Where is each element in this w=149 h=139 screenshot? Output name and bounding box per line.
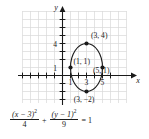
- point-marker-bottom: [84, 89, 88, 93]
- x-axis: [18, 73, 137, 79]
- point-label-3-minus2: (3, −2): [74, 95, 95, 104]
- equation-second-denominator: 9: [62, 120, 66, 129]
- equation-first-numerator-text: (x − 3): [12, 110, 34, 119]
- point-marker-top: [84, 41, 88, 45]
- equation-operator: +: [40, 116, 49, 125]
- point-marker-left: [68, 65, 72, 69]
- equation-equals-one: = 1: [79, 116, 92, 125]
- y-tick-label-1: 1: [53, 64, 57, 73]
- point-label-1-1: (1, 1): [74, 57, 91, 66]
- equation-first-exponent: 2: [34, 108, 37, 114]
- x-tick-label-1: 1: [69, 78, 73, 87]
- y-tick-label-4: 4: [53, 40, 57, 49]
- equation-first-fraction: (x − 3)2 4: [10, 111, 39, 129]
- ellipse-equation: (x − 3)2 4 + (y − 1)2 9 = 1: [9, 107, 121, 133]
- point-label-5-1: (5, 1): [93, 66, 110, 75]
- equation-second-exponent: 2: [74, 108, 77, 114]
- x-axis-label: x: [135, 76, 140, 85]
- y-axis-label: y: [53, 3, 58, 12]
- x-tick-label-3: 3: [85, 78, 89, 87]
- equation-second-numerator-text: (y − 1): [52, 110, 74, 119]
- ellipse-graph-figure: (3, 4) (1, 1) (5, 1) (3, −2) 1 3 5 1 4 x…: [0, 0, 149, 139]
- equation-second-numerator: (y − 1)2: [50, 111, 79, 120]
- y-axis: [60, 6, 66, 105]
- equation-first-numerator: (x − 3)2: [10, 111, 39, 120]
- x-tick-label-5: 5: [101, 78, 105, 87]
- equation-second-fraction: (y − 1)2 9: [50, 111, 79, 129]
- point-label-3-4: (3, 4): [91, 31, 108, 40]
- equation-first-denominator: 4: [22, 120, 26, 129]
